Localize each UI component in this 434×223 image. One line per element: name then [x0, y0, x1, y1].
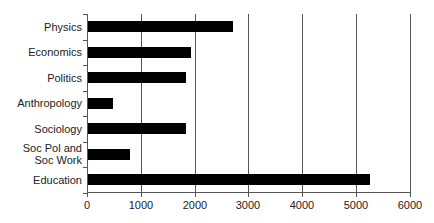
category-label-line: Education	[33, 174, 82, 186]
x-tick-label: 0	[67, 199, 107, 211]
bar-education	[88, 174, 370, 185]
gridline	[410, 14, 411, 192]
gridline	[302, 14, 303, 192]
category-label-line: Politics	[47, 72, 82, 84]
x-tick-label: 3000	[228, 199, 268, 211]
bar-anthropology	[88, 98, 113, 109]
category-label-line: Anthropology	[17, 97, 82, 109]
bar-economics	[88, 47, 191, 58]
category-label: Physics	[44, 21, 82, 33]
horizontal-bar-chart: PhysicsEconomicsPoliticsAnthropologySoci…	[0, 0, 434, 223]
category-label: Anthropology	[17, 97, 82, 109]
bar-politics	[88, 72, 186, 83]
category-label-line: Economics	[28, 46, 82, 58]
x-tick-label: 2000	[175, 199, 215, 211]
x-tick-label: 1000	[121, 199, 161, 211]
x-tick	[410, 192, 411, 197]
category-label-line: Soc Work	[23, 154, 82, 166]
category-label-line: Soc Pol and	[23, 142, 82, 154]
x-tick-label: 4000	[282, 199, 322, 211]
x-axis	[87, 192, 410, 193]
bar-soc-pol-and-soc-work	[88, 149, 130, 160]
x-tick-label: 6000	[390, 199, 430, 211]
gridline	[248, 14, 249, 192]
category-label-line: Sociology	[34, 123, 82, 135]
category-label: Soc Pol andSoc Work	[23, 142, 82, 166]
category-label-line: Physics	[44, 21, 82, 33]
category-label: Politics	[47, 72, 82, 84]
category-label: Economics	[28, 46, 82, 58]
category-label: Education	[33, 174, 82, 186]
category-label: Sociology	[34, 123, 82, 135]
bar-physics	[88, 21, 233, 32]
gridline	[195, 14, 196, 192]
gridline	[356, 14, 357, 192]
bar-sociology	[88, 123, 186, 134]
gridline	[141, 14, 142, 192]
x-tick-label: 5000	[336, 199, 376, 211]
